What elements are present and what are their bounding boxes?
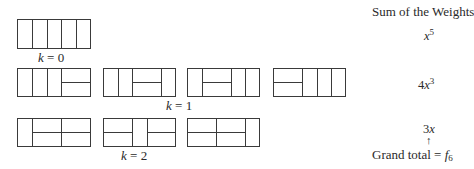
tiling-k2-1 xyxy=(17,118,91,147)
cell-divider xyxy=(231,69,232,96)
k-label-2: k = 2 xyxy=(121,148,147,164)
tiling-k1-1 xyxy=(17,68,91,97)
domino-divider xyxy=(202,82,231,83)
cell-divider xyxy=(245,69,246,96)
weight-k1: 4x3 xyxy=(418,76,434,93)
cell-divider xyxy=(32,69,33,96)
cell-divider xyxy=(302,69,303,96)
weights-title: Sum of the Weights xyxy=(372,4,474,20)
domino-divider xyxy=(104,132,132,133)
cell-divider xyxy=(331,69,332,96)
weight-k0: x5 xyxy=(424,27,434,44)
cell-divider xyxy=(76,20,77,48)
tiling-k2-2 xyxy=(103,118,176,147)
tiling-k1-4 xyxy=(273,68,346,97)
cell-divider xyxy=(161,69,162,96)
cell-divider xyxy=(47,20,48,48)
domino-divider xyxy=(274,82,302,83)
domino-divider xyxy=(32,132,90,133)
grand-total: Grand total = f6 xyxy=(372,147,453,163)
domino-divider xyxy=(147,132,175,133)
tiling-k0-1 xyxy=(17,19,91,49)
k-label-1: k = 1 xyxy=(166,98,192,114)
tiling-k2-3 xyxy=(187,118,260,147)
cell-divider xyxy=(317,69,318,96)
domino-divider xyxy=(188,132,245,133)
k-label-0: k = 0 xyxy=(38,50,64,66)
cell-divider xyxy=(47,69,48,96)
domino-divider xyxy=(132,82,161,83)
cell-divider xyxy=(132,119,133,146)
cell-divider xyxy=(32,20,33,48)
domino-divider xyxy=(61,82,90,83)
cell-divider xyxy=(245,119,246,146)
cell-divider xyxy=(118,69,119,96)
total-arrow-icon: ↑ xyxy=(426,134,432,146)
cell-divider xyxy=(61,20,62,48)
tiling-k1-2 xyxy=(103,68,176,97)
tiling-k1-3 xyxy=(187,68,260,97)
